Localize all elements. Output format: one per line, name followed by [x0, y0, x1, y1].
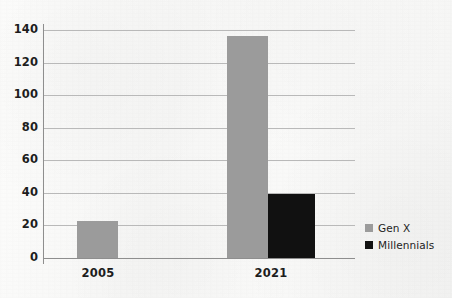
y-tick-label-120: 120 [4, 57, 38, 69]
gridline-120 [43, 63, 355, 64]
y-tick-label-80: 80 [4, 122, 38, 134]
legend-item-gen-x: Gen X [365, 220, 451, 235]
y-tick-label-60: 60 [4, 154, 38, 166]
bar-gen-x-2005 [77, 221, 118, 258]
gridline-60 [43, 160, 355, 161]
y-tick-label-140: 140 [4, 24, 38, 36]
bar-chart: 140 120 100 80 60 40 20 0 2005 2021 [0, 0, 452, 298]
x-tick-label-2005: 2005 [67, 268, 129, 280]
legend-label-millennials: Millennials [378, 239, 434, 251]
bar-millennials-2021 [268, 194, 315, 258]
legend-label-gen-x: Gen X [378, 222, 410, 234]
y-tick-label-20: 20 [4, 219, 38, 231]
y-axis-line [43, 24, 44, 264]
chart-legend: Gen X Millennials [365, 220, 451, 254]
legend-item-millennials: Millennials [365, 237, 451, 252]
legend-swatch-millennials-icon [365, 241, 373, 249]
legend-swatch-gen-x-icon [365, 224, 373, 232]
y-tick-label-100: 100 [4, 89, 38, 101]
x-tick-label-2021: 2021 [240, 268, 302, 280]
x-axis-line [43, 258, 355, 259]
gridline-100 [43, 95, 355, 96]
y-tick-label-0: 0 [4, 252, 38, 264]
bar-gen-x-2021 [227, 36, 268, 258]
gridline-140 [43, 30, 355, 31]
chart-page: 140 120 100 80 60 40 20 0 2005 2021 [0, 0, 452, 298]
y-tick-label-40: 40 [4, 187, 38, 199]
gridline-80 [43, 128, 355, 129]
